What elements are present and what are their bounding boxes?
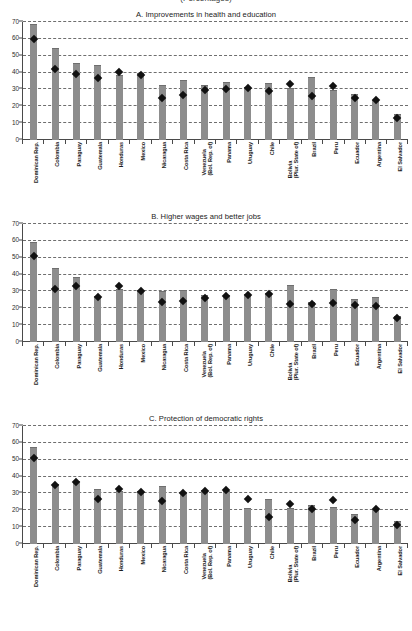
chart-panel-a: A. Improvements in health and education … (0, 10, 412, 198)
x-label-slot: Peru (322, 140, 343, 198)
x-axis-country-label: Bolivia(Plur. State of) (287, 546, 299, 582)
bar-slot (387, 22, 408, 140)
diamond-marker (286, 80, 294, 88)
x-axis-country-label: Costa Rica (183, 546, 189, 574)
x-label-slot: Guatemala (86, 342, 107, 400)
y-tick-label-b-30: 30 (12, 288, 22, 294)
x-axis-country-label: Mexico (140, 546, 146, 564)
x-axis-country-label: Argentina (376, 142, 382, 167)
bar (330, 289, 337, 342)
bar (287, 88, 294, 140)
x-axis-country-label: Panama (226, 546, 232, 567)
diamond-marker (329, 496, 337, 504)
x-axis-country-label: Honduras (118, 142, 124, 167)
x-label-slot: Argentina (365, 140, 386, 198)
bar-slot (301, 224, 322, 342)
bar-slot (365, 22, 386, 140)
x-label-slot: Panama (215, 140, 236, 198)
x-label-slot: Uruguay (236, 544, 257, 602)
x-axis-country-label: Argentina (376, 344, 382, 369)
x-axis-country-label: Ecuador (354, 546, 360, 568)
figure-supertitle: (Percentages) (0, 0, 412, 3)
bar-slot (280, 224, 301, 342)
bar-slot (151, 224, 172, 342)
x-label-slot: Venezuela(Bol. Rep. of) (194, 140, 215, 198)
bar-slot (216, 22, 237, 140)
x-label-slot: Argentina (365, 342, 386, 400)
x-label-slot: El Salvador (386, 342, 407, 400)
x-label-slot: Panama (215, 544, 236, 602)
bar-slot (23, 224, 44, 342)
x-label-slot: Brazil (301, 140, 322, 198)
bar-slot (322, 224, 343, 342)
y-tick-label-c-20: 20 (12, 507, 22, 513)
x-axis-country-label: Venezuela(Bol. Rep. of) (201, 344, 213, 377)
x-label-slot: Brazil (301, 342, 322, 400)
x-label-slot: Paraguay (65, 140, 86, 198)
x-axis-country-label: Guatemala (97, 546, 103, 574)
y-tick-label-a-40: 40 (12, 69, 22, 75)
bar-slot (237, 224, 258, 342)
bar-slot (301, 22, 322, 140)
bar-slot (173, 22, 194, 140)
x-label-slot: El Salvador (386, 544, 407, 602)
x-axis-country-label: Uruguay (247, 344, 253, 366)
bar (308, 77, 315, 140)
bar-slot (344, 224, 365, 342)
bar-slot (87, 426, 108, 544)
x-axis-country-label: Dominican Rep. (33, 344, 39, 385)
x-label-slot: Colombia (43, 342, 64, 400)
y-tick-label-a-20: 20 (12, 103, 22, 109)
bar-slot (322, 426, 343, 544)
y-tick-label-a-30: 30 (12, 86, 22, 92)
x-axis-country-label: Costa Rica (183, 142, 189, 170)
bar-slot (387, 224, 408, 342)
x-label-slot: Chile (258, 140, 279, 198)
x-axis-country-label: Bolivia(Plur. State of) (287, 142, 299, 178)
bar (116, 491, 123, 544)
bar (223, 295, 230, 342)
x-axis-country-label: Bolivia(Plur. State of) (287, 344, 299, 380)
x-axis-country-label: Colombia (54, 546, 60, 571)
x-axis-country-label: Colombia (54, 142, 60, 167)
x-axis-country-label: Dominican Rep. (33, 546, 39, 587)
y-tick-label-c-10: 10 (12, 524, 22, 530)
x-label-slot: El Salvador (386, 140, 407, 198)
x-axis-country-label: Honduras (118, 344, 124, 369)
x-axis-country-label: Peru (333, 142, 339, 154)
x-axis-labels-b: Dominican Rep.ColombiaParaguayGuatemalaH… (22, 342, 408, 400)
y-tick-label-c-70: 70 (12, 423, 22, 429)
x-label-slot: Bolivia(Plur. State of) (279, 140, 300, 198)
bar (180, 492, 187, 544)
bar-slot (87, 224, 108, 342)
bar-slot (173, 224, 194, 342)
bar-slot (109, 224, 130, 342)
x-label-slot: Ecuador (344, 342, 365, 400)
x-axis-country-label: Brazil (311, 344, 317, 359)
x-axis-country-label: Uruguay (247, 546, 253, 568)
x-axis-country-label: El Salvador (397, 546, 403, 575)
bar-slot (216, 224, 237, 342)
x-label-slot: Honduras (108, 342, 129, 400)
bar (52, 48, 59, 140)
bar (372, 100, 379, 140)
y-tick-label-b-60: 60 (12, 238, 22, 244)
diamond-marker (286, 499, 294, 507)
bar-slot (301, 426, 322, 544)
x-label-slot: Honduras (108, 544, 129, 602)
bar (287, 508, 294, 544)
bar-slot (387, 426, 408, 544)
x-label-slot: Guatemala (86, 544, 107, 602)
bar (330, 90, 337, 140)
x-label-slot: Honduras (108, 140, 129, 198)
x-label-slot: Colombia (43, 544, 64, 602)
chart-title-b: B. Higher wages and better jobs (0, 212, 412, 222)
bar-slot (66, 224, 87, 342)
bar-slot (109, 426, 130, 544)
bar-slot (237, 426, 258, 544)
y-tick-label-c-40: 40 (12, 473, 22, 479)
x-axis-country-label: Uruguay (247, 142, 253, 164)
chart-panel-c: C. Protection of democratic rights 01020… (0, 414, 412, 602)
x-axis-country-label: Nicaragua (161, 344, 167, 370)
x-axis-country-label: Brazil (311, 546, 317, 561)
